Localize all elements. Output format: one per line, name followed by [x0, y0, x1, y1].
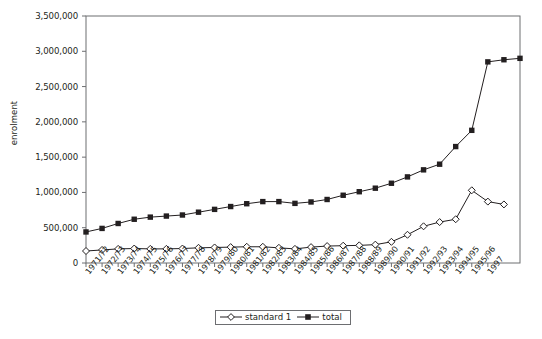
series-total — [83, 56, 522, 235]
marker-point-9 — [228, 204, 233, 209]
marker-point-24 — [468, 187, 475, 194]
marker-point-25 — [485, 59, 490, 64]
marker-point-25 — [484, 198, 491, 205]
marker-point-20 — [404, 231, 411, 238]
marker-point-19 — [389, 181, 394, 186]
marker-point-2 — [115, 221, 120, 226]
marker-point-5 — [164, 213, 169, 218]
marker-point-18 — [373, 185, 378, 190]
plot-frame — [86, 16, 520, 263]
legend-marker-filled-square — [297, 312, 319, 322]
marker-point-24 — [469, 128, 474, 133]
enrolment-line-chart: enrolment 0500,0001,000,0001,500,0002,00… — [0, 0, 542, 339]
marker-point-26 — [500, 201, 507, 208]
marker-point-22 — [436, 219, 443, 226]
axes — [82, 16, 520, 267]
marker-point-0 — [83, 229, 88, 234]
marker-point-3 — [132, 217, 137, 222]
marker-point-6 — [180, 212, 185, 217]
legend-item-total: total — [297, 312, 345, 322]
plot-area — [0, 0, 542, 339]
legend-label-total: total — [321, 313, 345, 322]
marker-point-17 — [357, 189, 362, 194]
marker-point-26 — [501, 57, 506, 62]
marker-point-20 — [405, 174, 410, 179]
marker-point-23 — [452, 216, 459, 223]
marker-point-22 — [437, 162, 442, 167]
marker-point-4 — [148, 214, 153, 219]
marker-point-10 — [244, 201, 249, 206]
data-series — [83, 56, 523, 255]
marker-point-21 — [420, 223, 427, 230]
chart-legend: standard 1 total — [215, 310, 351, 325]
marker-point-7 — [196, 209, 201, 214]
marker-point-21 — [421, 167, 426, 172]
marker-point-16 — [340, 193, 345, 198]
marker-point-27 — [517, 56, 522, 61]
marker-point-11 — [260, 199, 265, 204]
legend-label-standard-1: standard 1 — [244, 313, 294, 322]
marker-point-8 — [212, 207, 217, 212]
legend-marker-open-diamond — [220, 312, 242, 322]
marker-point-0 — [83, 248, 90, 255]
marker-point-14 — [308, 199, 313, 204]
marker-point-15 — [324, 197, 329, 202]
marker-point-12 — [276, 199, 281, 204]
marker-point-23 — [453, 144, 458, 149]
marker-point-13 — [292, 201, 297, 206]
marker-point-1 — [99, 226, 104, 231]
legend-item-standard-1: standard 1 — [220, 312, 294, 322]
